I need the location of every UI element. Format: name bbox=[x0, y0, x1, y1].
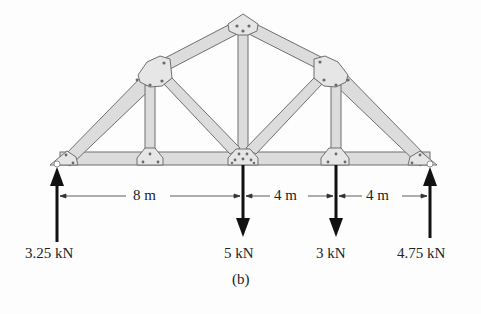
vertical-right bbox=[331, 85, 341, 150]
truss-drawing bbox=[0, 0, 481, 314]
dimension-label-4m-left: 4 m bbox=[274, 188, 297, 203]
truss-members bbox=[60, 20, 430, 166]
right-upper-plate bbox=[314, 56, 348, 87]
arrow-down-icon bbox=[236, 218, 250, 237]
left-reaction-label: 3.25 kN bbox=[25, 246, 73, 261]
arrow-down-icon bbox=[329, 218, 343, 237]
figure-caption: (b) bbox=[232, 272, 250, 287]
force-arrows bbox=[50, 165, 437, 242]
diagonal-right bbox=[246, 78, 322, 154]
right-reaction-label: 4.75 kN bbox=[397, 246, 445, 261]
vertical-left bbox=[145, 85, 155, 150]
dimension-label-4m-right: 4 m bbox=[366, 188, 389, 203]
arrow-up-icon bbox=[50, 167, 64, 186]
arrow-up-icon bbox=[423, 167, 437, 186]
center-load-label: 5 kN bbox=[224, 246, 254, 261]
truss-diagram: 8 m 4 m 4 m 3.25 kN 5 kN 3 kN 4.75 kN (b… bbox=[0, 0, 481, 314]
dimension-label-8m: 8 m bbox=[133, 188, 156, 203]
left-upper-plate bbox=[138, 56, 172, 87]
vertical-center bbox=[238, 28, 248, 152]
diagonal-left bbox=[164, 78, 240, 154]
right-load-label: 3 kN bbox=[316, 246, 346, 261]
